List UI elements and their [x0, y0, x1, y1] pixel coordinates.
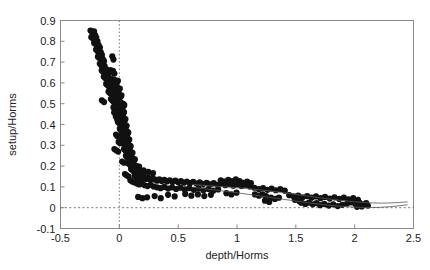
data-point: [215, 186, 221, 192]
data-point: [118, 92, 124, 98]
x-tick-label: 1: [234, 232, 240, 244]
data-point: [201, 193, 207, 199]
data-point: [172, 193, 178, 199]
x-tick-label: 2.5: [406, 232, 421, 244]
data-point: [195, 191, 201, 197]
y-tick-label: -0.1: [37, 223, 56, 235]
data-point: [140, 167, 146, 173]
y-tick-label: 0: [49, 202, 55, 214]
data-point: [276, 195, 282, 201]
figure-container: -0.500.511.522.5-0.100.10.20.30.40.50.60…: [0, 0, 430, 270]
data-point: [208, 192, 214, 198]
data-point: [110, 57, 116, 63]
data-point: [266, 199, 272, 205]
data-point: [101, 99, 107, 105]
y-tick-label: 0.4: [40, 119, 55, 131]
y-tick-label: 0.9: [40, 15, 55, 27]
y-axis-title: setup/Horms: [6, 93, 18, 156]
x-tick-label: 1.5: [288, 232, 303, 244]
x-tick-label: 0.5: [171, 232, 186, 244]
y-tick-label: 0.1: [40, 181, 55, 193]
data-point: [111, 70, 117, 76]
y-tick-label: 0.6: [40, 77, 55, 89]
plot-background: [0, 0, 430, 270]
data-point: [111, 109, 117, 115]
data-point: [152, 193, 158, 199]
y-tick-label: 0.5: [40, 98, 55, 110]
data-point: [188, 193, 194, 199]
data-point: [144, 194, 150, 200]
x-tick-label: 0: [116, 232, 122, 244]
data-point: [158, 195, 164, 201]
data-point: [128, 162, 134, 168]
y-tick-label: 0.3: [40, 139, 55, 151]
x-tick-label: 2: [352, 232, 358, 244]
y-tick-label: 0.8: [40, 35, 55, 47]
data-point: [115, 78, 121, 84]
scatter-plot[interactable]: -0.500.511.522.5-0.100.10.20.30.40.50.60…: [0, 0, 430, 270]
data-point: [115, 148, 121, 154]
data-point: [121, 102, 127, 108]
figure-caption: [0, 261, 430, 270]
y-tick-label: 0.2: [40, 160, 55, 172]
data-point: [165, 192, 171, 198]
data-point: [182, 191, 188, 197]
y-tick-label: 0.7: [40, 56, 55, 68]
x-axis-title: depth/Horms: [206, 249, 269, 261]
